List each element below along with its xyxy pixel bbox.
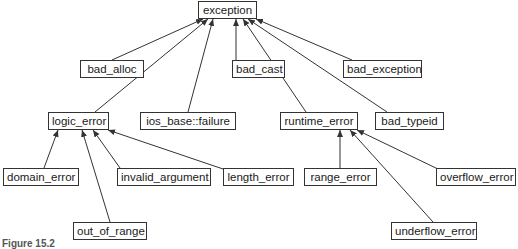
node-runtime-error: runtime_error [280,112,358,130]
node-ios-base-failure: ios_base::failure [140,112,236,130]
node-bad-alloc: bad_alloc [80,60,144,78]
figure-caption: Figure 15.2 [2,238,55,249]
node-logic-error: logic_error [48,112,109,130]
node-exception: exception [198,1,257,19]
arrow-bad_alloc-to-exception [112,19,203,60]
node-bad-exception: bad_exception [343,60,422,78]
node-overflow-error: overflow_error [436,168,516,186]
node-out-of-range: out_of_range [73,222,147,240]
node-length-error: length_error [223,168,294,186]
arrow-out_of_range-to-logic_error [82,130,110,222]
node-domain-error: domain_error [3,168,79,186]
node-bad-typeid: bad_typeid [375,112,444,130]
node-invalid-argument: invalid_argument [117,168,211,186]
arrow-overflow_error-to-runtime_error [357,130,440,170]
arrow-length_error-to-logic_error [108,130,226,170]
arrow-bad_exception-to-exception [256,19,352,60]
node-bad-cast: bad_cast [232,60,285,78]
arrow-invalid_argument-to-logic_error [93,130,120,168]
arrow-domain_error-to-logic_error [44,130,58,168]
node-underflow-error: underflow_error [391,222,477,240]
node-range-error: range_error [304,168,377,186]
